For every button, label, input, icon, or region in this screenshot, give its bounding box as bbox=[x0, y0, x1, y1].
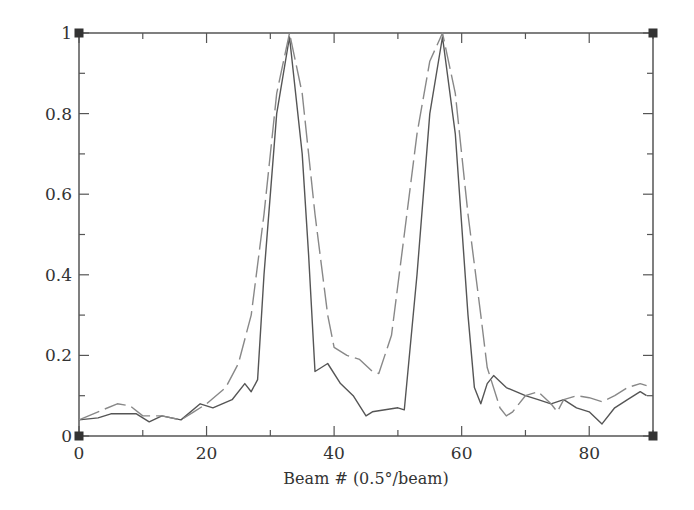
corner-marker bbox=[649, 432, 658, 441]
corner-markers bbox=[75, 29, 658, 441]
plot-frame bbox=[79, 33, 653, 436]
axis-ticks bbox=[79, 33, 653, 436]
y-tick-label: 0.8 bbox=[45, 104, 72, 124]
series-dashed bbox=[79, 33, 647, 420]
x-tick-label: 20 bbox=[196, 443, 218, 463]
x-tick-label: 0 bbox=[74, 443, 85, 463]
y-tick-label: 0.2 bbox=[45, 345, 72, 365]
series-solid bbox=[79, 37, 647, 424]
x-tick-label: 80 bbox=[578, 443, 600, 463]
x-tick-labels: 020406080 bbox=[74, 443, 600, 463]
axes-box bbox=[79, 33, 653, 436]
corner-marker bbox=[75, 432, 84, 441]
data-series bbox=[79, 33, 647, 424]
x-tick-label: 40 bbox=[323, 443, 345, 463]
x-axis-title: Beam # (0.5°/beam) bbox=[283, 469, 448, 488]
y-tick-label: 1 bbox=[61, 23, 72, 43]
x-tick-label: 60 bbox=[451, 443, 473, 463]
y-tick-label: 0 bbox=[61, 426, 72, 446]
corner-marker bbox=[649, 29, 658, 38]
y-tick-label: 0.4 bbox=[45, 265, 72, 285]
y-tick-label: 0.6 bbox=[45, 184, 72, 204]
corner-marker bbox=[75, 29, 84, 38]
y-tick-labels: 00.20.40.60.81 bbox=[45, 23, 72, 446]
beam-intensity-chart: 00.20.40.60.81 020406080 Beam # (0.5°/be… bbox=[0, 0, 694, 510]
